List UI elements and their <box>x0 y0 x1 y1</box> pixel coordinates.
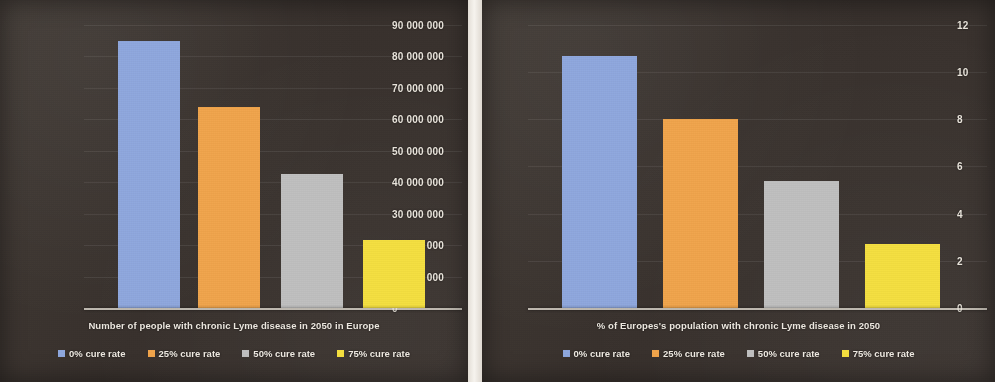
bar-25-cure-rate[interactable] <box>198 107 260 308</box>
legend-right: 0% cure rate 25% cure rate 50% cure rate… <box>482 348 995 359</box>
bar-0-cure-rate[interactable] <box>562 56 637 308</box>
page-gutter <box>468 0 482 382</box>
legend-item[interactable]: 75% cure rate <box>842 348 915 359</box>
legend-item[interactable]: 25% cure rate <box>652 348 725 359</box>
square-swatch-blue-icon <box>58 350 65 357</box>
square-swatch-gray-icon <box>747 350 754 357</box>
chart-panel-left: 90 000 000 80 000 000 70 000 000 60 000 … <box>0 0 468 382</box>
bar-75-cure-rate[interactable] <box>865 244 940 308</box>
x-axis-title-right: % of Europes's population with chronic L… <box>482 320 995 331</box>
legend-left: 0% cure rate 25% cure rate 50% cure rate… <box>0 348 468 359</box>
bars-left <box>0 0 468 308</box>
square-swatch-orange-icon <box>652 350 659 357</box>
square-swatch-gray-icon <box>242 350 249 357</box>
square-swatch-orange-icon <box>148 350 155 357</box>
plot-area-right: 12 10 8 6 4 2 0 <box>482 0 995 382</box>
x-axis-title-left: Number of people with chronic Lyme disea… <box>0 320 468 331</box>
legend-item-label: 25% cure rate <box>159 348 221 359</box>
legend-item-label: 75% cure rate <box>853 348 915 359</box>
legend-item-label: 0% cure rate <box>574 348 631 359</box>
legend-item[interactable]: 25% cure rate <box>148 348 221 359</box>
x-axis-line-right <box>528 308 987 310</box>
square-swatch-yellow-icon <box>337 350 344 357</box>
figure-scan: 90 000 000 80 000 000 70 000 000 60 000 … <box>0 0 995 382</box>
bars-right <box>482 0 995 308</box>
legend-item-label: 0% cure rate <box>69 348 126 359</box>
legend-item[interactable]: 75% cure rate <box>337 348 410 359</box>
square-swatch-yellow-icon <box>842 350 849 357</box>
legend-item[interactable]: 50% cure rate <box>747 348 820 359</box>
legend-item-label: 50% cure rate <box>253 348 315 359</box>
legend-item[interactable]: 0% cure rate <box>563 348 631 359</box>
legend-item[interactable]: 50% cure rate <box>242 348 315 359</box>
legend-item-label: 75% cure rate <box>348 348 410 359</box>
bar-0-cure-rate[interactable] <box>118 41 180 308</box>
legend-item-label: 50% cure rate <box>758 348 820 359</box>
bar-75-cure-rate[interactable] <box>363 240 425 308</box>
legend-item-label: 25% cure rate <box>663 348 725 359</box>
plot-area-left: 90 000 000 80 000 000 70 000 000 60 000 … <box>0 0 468 382</box>
bar-50-cure-rate[interactable] <box>764 181 839 308</box>
bar-25-cure-rate[interactable] <box>663 119 738 308</box>
legend-item[interactable]: 0% cure rate <box>58 348 126 359</box>
x-axis-line-left <box>84 308 462 310</box>
chart-panel-right: 12 10 8 6 4 2 0 <box>482 0 995 382</box>
bar-50-cure-rate[interactable] <box>281 174 343 308</box>
square-swatch-blue-icon <box>563 350 570 357</box>
